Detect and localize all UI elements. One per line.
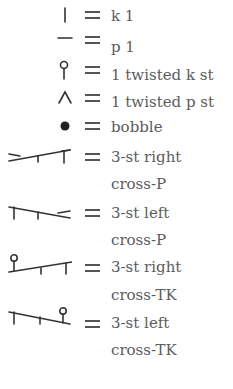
twisted-knit-icon	[57, 59, 71, 81]
legend-label-right-cross-p-line2: cross-P	[111, 175, 166, 193]
legend-label-twisted-p: 1 twisted p st	[111, 93, 214, 111]
legend-label-right-cross-tk-line2: cross-TK	[111, 286, 177, 304]
equals-sign	[85, 36, 100, 44]
bobble-icon	[58, 119, 72, 133]
right-cross-purl-icon	[6, 146, 72, 166]
legend-label-k1: k 1	[111, 7, 134, 25]
equals-sign	[85, 153, 100, 161]
left-cross-twisted-knit-icon	[6, 306, 72, 330]
equals-sign	[85, 264, 100, 272]
equals-sign	[85, 66, 100, 74]
equals-sign	[85, 11, 100, 19]
legend-label-left-cross-p-line2: cross-P	[111, 231, 166, 249]
legend-label-left-cross-tk: 3-st left	[111, 314, 169, 332]
legend-label-bobble: bobble	[111, 118, 163, 136]
legend-label-left-cross-tk-line2: cross-TK	[111, 341, 177, 359]
legend-label-p1: p 1	[111, 38, 135, 56]
vertical-bar-icon	[60, 6, 70, 24]
horizontal-dash-icon	[56, 33, 74, 43]
legend-label-left-cross-p: 3-st left	[111, 204, 169, 222]
equals-sign	[85, 122, 100, 130]
right-cross-twisted-knit-icon	[6, 253, 72, 277]
equals-sign	[85, 209, 100, 217]
legend-label-right-cross-p: 3-st right	[111, 148, 181, 166]
legend-label-right-cross-tk: 3-st right	[111, 258, 181, 276]
equals-sign	[85, 320, 100, 328]
left-cross-purl-icon	[6, 203, 72, 223]
twisted-purl-icon	[57, 89, 73, 105]
legend-label-twisted-k: 1 twisted k st	[111, 66, 214, 84]
equals-sign	[85, 94, 100, 102]
